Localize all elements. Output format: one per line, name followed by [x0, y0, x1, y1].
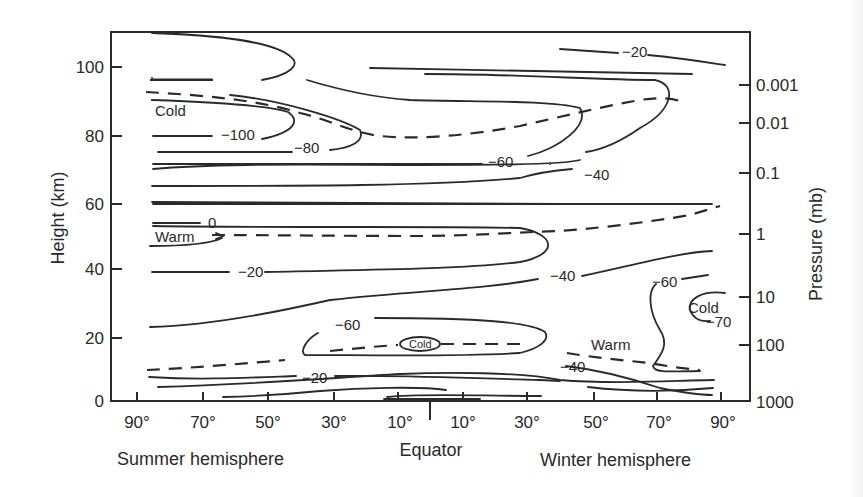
region-label-warm: Warm — [591, 336, 630, 353]
contour-label: −60 — [335, 316, 360, 333]
p-tick-1000: 1000 — [756, 393, 794, 412]
contour-label: −60 — [652, 273, 677, 290]
summer-hemisphere-label: Summer hemisphere — [117, 449, 284, 469]
contour-label: −40 — [584, 166, 609, 183]
x-tick-90n: 90° — [710, 413, 736, 432]
y-tick-40: 40 — [85, 260, 104, 279]
y-tick-20: 20 — [85, 329, 104, 348]
contour-labels: −20 −100 −80 −60 −40 0 −20 −40 −60 −70 −… — [208, 43, 731, 386]
x-tick-10s: 10° — [387, 413, 413, 432]
page-edge-shade — [850, 0, 863, 497]
p-tick-100: 100 — [756, 336, 784, 355]
contour-label: −60 — [488, 153, 513, 170]
y-tick-0: 0 — [95, 392, 104, 411]
region-label-cold: Cold — [409, 338, 432, 350]
contour-label: −20 — [622, 43, 647, 60]
p-tick-0.001: 0.001 — [756, 76, 799, 95]
p-tick-0.01: 0.01 — [756, 114, 789, 133]
contour-label: −20 — [302, 369, 327, 386]
p-tick-1: 1 — [756, 225, 765, 244]
contours-lower — [149, 204, 725, 399]
x-tick-90s: 90° — [124, 413, 150, 432]
p-tick-0.1: 0.1 — [756, 164, 780, 183]
x-tick-70n: 70° — [646, 413, 672, 432]
x-tick-50n: 50° — [583, 413, 609, 432]
contour-label: −100 — [221, 126, 255, 143]
equator-label: Equator — [399, 440, 462, 460]
x-tick-50s: 50° — [255, 413, 281, 432]
x-tick-30n: 30° — [514, 413, 540, 432]
y-tick-80: 80 — [85, 127, 104, 146]
region-label-cold: Cold — [155, 102, 186, 119]
contour-label: 0 — [208, 214, 216, 231]
contour-label: −80 — [294, 139, 319, 156]
y-axis-right-label: Pressure (mb) — [806, 187, 826, 301]
contour-label: −40 — [560, 358, 585, 375]
contour-label: −40 — [550, 267, 575, 284]
y-tick-100: 100 — [76, 58, 104, 77]
winter-hemisphere-label: Winter hemisphere — [540, 450, 691, 470]
x-axis: 90° 70° 50° 30° 10° 10° 30° 50° 70° 90° … — [117, 392, 736, 470]
region-label-warm: Warm — [155, 228, 194, 245]
x-tick-10n: 10° — [450, 413, 476, 432]
x-tick-70s: 70° — [190, 413, 216, 432]
y-axis-right: 0.001 0.01 0.1 1 10 100 1000 Pressure (m… — [739, 76, 826, 412]
x-tick-30s: 30° — [321, 413, 347, 432]
stratopause-line — [212, 206, 720, 236]
temperature-contour-chart: 100 80 60 40 20 0 Height (km) 0.001 0.01… — [0, 0, 863, 497]
y-tick-60: 60 — [85, 195, 104, 214]
contour-label: −20 — [238, 263, 263, 280]
p-tick-10: 10 — [756, 288, 775, 307]
y-axis-label: Height (km) — [48, 171, 68, 264]
region-label-cold: Cold — [688, 299, 719, 316]
